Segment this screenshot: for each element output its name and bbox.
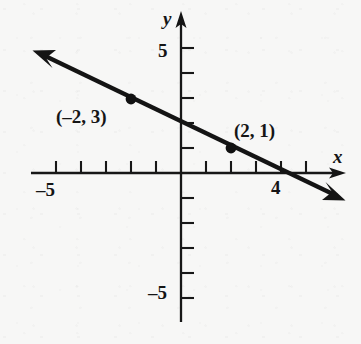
y-axis-label: y xyxy=(163,9,171,28)
y-tick-label-negative-5: –5 xyxy=(148,283,167,302)
data-point-2-1 xyxy=(226,143,237,154)
y-axis-group xyxy=(176,11,195,322)
x-tick-label-4: 4 xyxy=(271,178,281,197)
coordinate-plane-canvas xyxy=(0,0,361,344)
x-tick-label-negative-5: –5 xyxy=(36,180,55,199)
point-label-neg2-3: (–2, 3) xyxy=(56,107,107,126)
x-axis-label: x xyxy=(333,147,343,166)
y-tick-label-5: 5 xyxy=(158,41,168,60)
data-point-neg2-3 xyxy=(126,94,137,105)
graph-figure: y x 5 –5 –5 4 (–2, 3) (2, 1) xyxy=(0,0,361,344)
point-label-2-1: (2, 1) xyxy=(234,121,275,140)
